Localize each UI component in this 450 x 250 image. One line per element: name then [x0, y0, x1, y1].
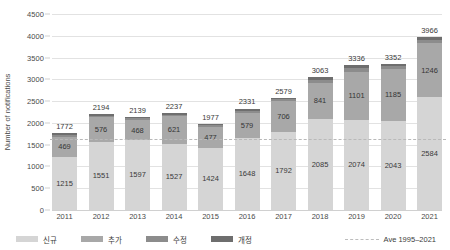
y-axis-tick-mark: [45, 188, 50, 189]
bar-total-label: 3966: [421, 26, 438, 35]
bar-segment[interactable]: 1648: [235, 138, 260, 210]
bar-segment[interactable]: 2074: [344, 120, 369, 210]
y-axis-tick-label: 1000: [27, 162, 44, 171]
bar-segment[interactable]: 2584: [417, 97, 442, 210]
bar-column[interactable]: 19774771424: [198, 14, 223, 210]
bar-stack[interactable]: 6211527: [162, 113, 187, 210]
y-axis-tick-mark: [45, 35, 50, 36]
bar-stack[interactable]: 4691215: [52, 133, 77, 210]
bar-column[interactable]: 21394681597: [125, 14, 150, 210]
bar-segment-label: 1527: [166, 173, 183, 181]
x-axis-tick-label: 2012: [89, 212, 114, 226]
bar-stack[interactable]: 8412085: [308, 77, 333, 210]
bar-column[interactable]: 23315791648: [235, 14, 260, 210]
bar-segment-label: 841: [314, 97, 327, 105]
bar-segment[interactable]: 2085: [308, 119, 333, 210]
bar-segment[interactable]: 579: [235, 113, 260, 138]
bar-stack[interactable]: 11852043: [381, 64, 406, 210]
bar-segment[interactable]: 1215: [52, 157, 77, 210]
legend-swatch-dashed-line: [345, 239, 379, 240]
bar-segment-label: 468: [131, 127, 144, 135]
bar-segment[interactable]: 706: [271, 101, 296, 132]
bar-total-label: 2139: [129, 106, 146, 115]
y-axis-tick-label: 2000: [27, 118, 44, 127]
y-axis-tick-label: 4500: [27, 10, 44, 19]
bar-segment-label: 469: [58, 143, 71, 151]
x-axis-tick-label: 2014: [162, 212, 187, 226]
bar-segment[interactable]: 1101: [344, 72, 369, 120]
y-axis-tick-mark: [45, 166, 50, 167]
bar-segment-label: 706: [277, 113, 290, 121]
bar-segment[interactable]: 1792: [271, 132, 296, 210]
y-axis-tick-label: 500: [31, 184, 44, 193]
bar-stack[interactable]: 11012074: [344, 65, 369, 210]
bar-segment[interactable]: 1185: [381, 69, 406, 121]
bar-segment[interactable]: 841: [308, 83, 333, 120]
bar-segment-label: 2584: [421, 150, 438, 158]
legend-item[interactable]: 개정: [211, 234, 252, 245]
bar-column[interactable]: 30638412085: [308, 14, 333, 210]
bar-column[interactable]: 21945761551: [89, 14, 114, 210]
y-axis-tick-mark: [45, 79, 50, 80]
bar-stack[interactable]: 7061792: [271, 98, 296, 210]
chart-legend: 신규추가수정개정Ave 1995–2021: [16, 232, 440, 246]
bar-segment[interactable]: 1551: [89, 142, 114, 210]
bar-total-label: 2194: [93, 103, 110, 112]
bar-segment-label: 1792: [275, 167, 292, 175]
legend-label: 신규: [43, 234, 57, 245]
x-axis-tick-label: 2019: [344, 212, 369, 226]
bar-total-label: 2331: [239, 97, 256, 106]
bar-column[interactable]: 396612462584: [417, 14, 442, 210]
chart-container: Number of notifications 0500100015002000…: [0, 0, 450, 250]
bar-series-group: 1772469121521945761551213946815972237621…: [52, 14, 442, 210]
bar-total-label: 1772: [56, 122, 73, 131]
bar-total-label: 3336: [348, 54, 365, 63]
bar-segment[interactable]: 2043: [381, 121, 406, 210]
x-axis-tick-label: 2013: [125, 212, 150, 226]
bar-column[interactable]: 335211852043: [381, 14, 406, 210]
bar-total-label: 3352: [385, 53, 402, 62]
y-axis-tick-label: 2500: [27, 97, 44, 106]
legend-item[interactable]: 추가: [81, 234, 122, 245]
legend-swatch: [81, 236, 103, 242]
bar-column[interactable]: 17724691215: [52, 14, 77, 210]
legend-swatch: [211, 236, 233, 242]
bar-segment[interactable]: 1246: [417, 43, 442, 97]
x-axis-tick-label: 2018: [308, 212, 333, 226]
bar-stack[interactable]: 4681597: [125, 117, 150, 210]
bar-stack[interactable]: 5761551: [89, 114, 114, 210]
legend-item[interactable]: 수정: [146, 234, 187, 245]
x-axis-tick-label: 2017: [271, 212, 296, 226]
bar-segment-label: 579: [241, 122, 254, 130]
bar-column[interactable]: 333611012074: [344, 14, 369, 210]
y-axis-tick-mark: [45, 101, 50, 102]
bar-stack[interactable]: 4771424: [198, 124, 223, 210]
bar-column[interactable]: 25797061792: [271, 14, 296, 210]
bar-total-label: 2579: [275, 87, 292, 96]
x-axis-tick-label: 2021: [417, 212, 442, 226]
bar-total-label: 2237: [166, 102, 183, 111]
bar-segment[interactable]: 477: [198, 127, 223, 148]
bar-segment[interactable]: 1527: [162, 144, 187, 211]
bar-segment-label: 2085: [312, 161, 329, 169]
bar-segment-label: 1246: [421, 67, 438, 75]
bar-segment[interactable]: 1424: [198, 148, 223, 210]
bar-segment[interactable]: 468: [125, 120, 150, 140]
bar-segment-label: 1648: [239, 170, 256, 178]
bar-segment-label: 1551: [93, 172, 110, 180]
bar-segment[interactable]: 1597: [125, 140, 150, 210]
average-reference-line: [50, 139, 446, 140]
bar-stack[interactable]: 5791648: [235, 108, 260, 210]
bar-segment-label: 576: [95, 126, 108, 134]
y-axis-tick-mark: [45, 14, 50, 15]
bar-segment-label: 1597: [129, 171, 146, 179]
bar-column[interactable]: 22376211527: [162, 14, 187, 210]
y-axis-tick-label: 1500: [27, 140, 44, 149]
x-axis-tick-label: 2011: [52, 212, 77, 226]
y-axis-tick-mark: [45, 144, 50, 145]
bar-stack[interactable]: 12462584: [417, 37, 442, 210]
legend-item[interactable]: 신규: [16, 234, 57, 245]
bar-segment-label: 2074: [348, 161, 365, 169]
legend-item-average[interactable]: Ave 1995–2021: [345, 235, 436, 244]
y-axis-tick-label: 0: [40, 206, 44, 215]
